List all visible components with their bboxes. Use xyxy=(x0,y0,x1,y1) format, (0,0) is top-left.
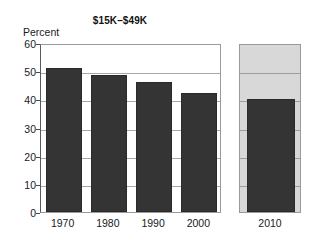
bar-2010 xyxy=(247,99,295,213)
y-tick-label-0: 0 xyxy=(6,208,36,219)
x-tick-label-1980: 1980 xyxy=(83,217,133,229)
panel-gridline-50 xyxy=(240,73,300,74)
y-tick-label-30: 30 xyxy=(6,124,36,135)
plot-inner xyxy=(41,45,220,212)
projected-panel-inner xyxy=(240,45,300,212)
chart-figure: $15K–$49K Percent 60 50 40 30 20 10 0 19… xyxy=(0,0,310,247)
bar-1970 xyxy=(46,68,82,212)
x-tick-label-1990: 1990 xyxy=(128,217,178,229)
x-tick-label-2000: 2000 xyxy=(173,217,223,229)
y-tick-label-50: 50 xyxy=(6,67,36,78)
y-tick-label-40: 40 xyxy=(6,95,36,106)
bar-2000 xyxy=(181,93,217,212)
y-tick-label-10: 10 xyxy=(6,180,36,191)
x-tick-label-1970: 1970 xyxy=(38,217,88,229)
bar-1980 xyxy=(91,75,127,212)
bar-1990 xyxy=(136,82,172,212)
y-tick-label-60: 60 xyxy=(6,39,36,50)
y-tick-mark-0 xyxy=(36,213,40,214)
y-tick-label-20: 20 xyxy=(6,152,36,163)
chart-title: $15K–$49K xyxy=(0,15,240,26)
x-tick-label-2010: 2010 xyxy=(245,217,295,229)
main-plot-area xyxy=(40,44,221,213)
projected-panel-2010 xyxy=(239,44,301,213)
y-axis-tick-labels: 60 50 40 30 20 10 0 xyxy=(0,0,36,247)
